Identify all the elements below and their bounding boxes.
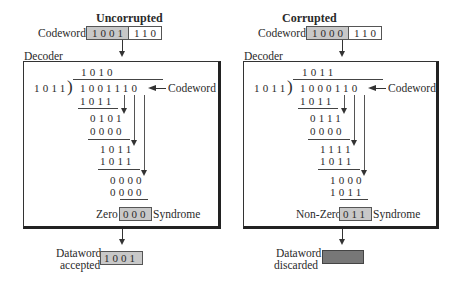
corrupted-panel: Corrupted Codeword 1000 110 Decoder 1011…: [232, 0, 463, 286]
codeword-pointer-line: [154, 88, 166, 89]
syndrome-box: 011: [339, 207, 372, 221]
codeword-data-bits: 1000: [307, 27, 349, 39]
dataword-label: Dataword: [276, 247, 321, 259]
subtraction-line: [88, 139, 130, 140]
codeword-box: 1000 110: [306, 26, 382, 40]
codeword-label: Codeword: [258, 27, 306, 39]
divisor: 1011: [34, 82, 68, 94]
syndrome-prefix: Zero: [96, 208, 118, 220]
division-row: 1011: [100, 143, 134, 155]
dataword-status: accepted: [60, 259, 100, 271]
division-bracket: ): [287, 78, 293, 96]
bring-down-line-1: [124, 95, 125, 109]
codeword-pointer-label: Codeword: [388, 82, 436, 94]
division-row: 0000: [310, 125, 345, 137]
bring-down-line-1: [344, 95, 345, 109]
divisor: 1011: [254, 82, 288, 94]
quotient: 1010: [81, 66, 116, 78]
division-bar: [73, 79, 163, 80]
quotient: 1011: [302, 66, 336, 78]
bring-down-line-3: [364, 95, 365, 171]
codeword-check-bits: 110: [349, 27, 381, 39]
division-row: 1011: [300, 95, 334, 107]
codeword-pointer-label: Codeword: [168, 82, 216, 94]
division-row: 1000: [330, 174, 365, 186]
division-row: 1011: [100, 155, 134, 167]
subtraction-line: [78, 108, 118, 109]
subtraction-line: [340, 199, 368, 200]
bring-down-line-2: [354, 95, 355, 141]
arrowhead-down-icon: [339, 239, 345, 245]
division-row: 0000: [110, 186, 145, 198]
syndrome-label: Syndrome: [153, 208, 200, 220]
codeword-check-bits: 110: [129, 27, 161, 39]
dataword-discarded-box: [322, 250, 364, 264]
subtraction-line: [98, 169, 140, 170]
syndrome-label: Syndrome: [373, 208, 420, 220]
panel-title: Uncorrupted: [96, 12, 163, 24]
division-row: 1011: [330, 186, 364, 198]
subtraction-line: [308, 139, 350, 140]
division-row: 1011: [80, 95, 114, 107]
division-bracket: ): [67, 78, 73, 96]
subtraction-line: [120, 199, 148, 200]
division-row: 0000: [90, 125, 125, 137]
arrowhead-down-icon: [119, 239, 125, 245]
codeword-data-bits: 1001: [87, 27, 129, 39]
syndrome-box: 000: [119, 207, 152, 221]
division-row: 0111: [310, 112, 344, 124]
division-row: 0000: [110, 174, 145, 186]
panel-title: Corrupted: [282, 12, 337, 24]
codeword-label: Codeword: [38, 27, 86, 39]
codeword-pointer-line: [374, 88, 386, 89]
division-row: 0101: [90, 112, 125, 124]
bring-down-line-2: [134, 95, 135, 141]
syndrome-prefix: Non-Zero: [296, 208, 341, 220]
division-bar: [293, 79, 383, 80]
dataword-label: Dataword: [56, 247, 101, 259]
arrowhead-down-icon: [339, 51, 345, 57]
bring-down-line-3: [144, 95, 145, 171]
division-row: 1011: [320, 155, 354, 167]
codeword-box: 1001 110: [86, 26, 162, 40]
subtraction-line: [318, 169, 360, 170]
division-row: 1111: [320, 143, 354, 155]
subtraction-line: [298, 108, 338, 109]
dividend: 1001110: [80, 82, 140, 94]
dataword-status: discarded: [274, 259, 318, 271]
dividend: 1000110: [300, 82, 361, 94]
uncorrupted-panel: Uncorrupted Codeword 1001 110 Decoder 10…: [0, 0, 232, 286]
arrowhead-down-icon: [119, 51, 125, 57]
dataword-box: 1001: [100, 251, 143, 265]
